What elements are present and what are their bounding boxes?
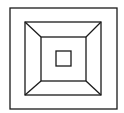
diagonal-bottom-right — [86, 81, 101, 95]
diagonal-top-left — [25, 22, 41, 37]
diagonal-bottom-left — [25, 81, 41, 95]
inner-square — [41, 37, 86, 81]
diagonal-top-right — [86, 22, 101, 37]
center-square — [56, 51, 71, 66]
nested-squares-diagram — [0, 0, 124, 113]
